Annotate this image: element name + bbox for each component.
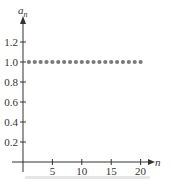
x-tick-label: 10 [76,165,88,177]
y-tick-label: 0.4 [4,116,18,128]
x-tick-label: 20 [135,165,147,177]
x-axis-label: n [155,156,161,168]
data-point [139,60,143,64]
data-point [39,60,43,64]
data-point [86,60,90,64]
x-tick-label: 5 [50,165,56,177]
data-point [103,60,107,64]
bottom-shadow-bar [25,176,150,179]
data-point [74,60,78,64]
data-point [133,60,137,64]
y-tick-label: 1.2 [4,36,18,48]
data-point [27,60,31,64]
sequence-plot: 0.20.40.60.81.01.2 5101520 an n [0,0,172,179]
data-point [97,60,101,64]
data-point [56,60,60,64]
data-point [68,60,72,64]
data-point [127,60,131,64]
data-point [91,60,95,64]
data-point [121,60,125,64]
x-axis-arrow-icon [148,159,155,165]
data-point [80,60,84,64]
data-point [44,60,48,64]
data-point [109,60,113,64]
data-point [33,60,37,64]
x-tick-label: 15 [106,165,118,177]
data-point [50,60,54,64]
data-point [115,60,119,64]
x-axis: 5101520 [12,159,155,177]
y-tick-label: 1.0 [4,56,18,68]
y-tick-label: 0.2 [4,136,18,148]
y-tick-label: 0.8 [4,76,18,88]
data-points [27,60,143,64]
data-point [62,60,66,64]
y-tick-label: 0.6 [4,96,18,108]
y-axis-label: an [18,4,28,19]
y-axis: 0.20.40.60.81.01.2 [4,16,26,172]
